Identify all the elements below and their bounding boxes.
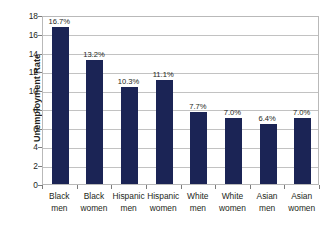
x-axis-tick-mark — [146, 185, 147, 189]
y-axis-tick-label: 6 — [12, 125, 38, 133]
bar[interactable] — [190, 112, 207, 184]
gridline — [43, 167, 318, 168]
gridline — [43, 148, 318, 149]
x-axis-tick-mark — [111, 185, 112, 189]
y-axis-tick-label: 12 — [12, 68, 38, 76]
x-axis-label-line: women — [279, 203, 325, 215]
x-axis-tick-mark — [215, 185, 216, 189]
x-axis-category-label: Asianwomen — [279, 191, 325, 214]
y-axis-tick-label: 16 — [12, 31, 38, 39]
x-axis-tick-mark — [77, 185, 78, 189]
bar-value-label: 11.1% — [142, 71, 184, 79]
y-axis-tick-label: 2 — [12, 162, 38, 170]
bar-chart: Unemployment Rate 181614121086420 16.7%1… — [0, 0, 334, 227]
gridline — [43, 35, 318, 36]
bar[interactable] — [294, 118, 311, 184]
y-axis-tick-label: 4 — [12, 143, 38, 151]
bar-value-label: 7.0% — [281, 109, 323, 117]
gridline — [43, 92, 318, 93]
bar[interactable] — [225, 118, 242, 184]
bar-value-label: 10.3% — [108, 78, 150, 86]
x-axis-tick-mark — [42, 185, 43, 189]
gridline — [43, 129, 318, 130]
bar[interactable] — [156, 80, 173, 184]
x-axis-tick-mark — [319, 185, 320, 189]
bar[interactable] — [52, 27, 69, 184]
plot-area — [42, 16, 319, 185]
y-axis-tick-label: 0 — [12, 181, 38, 189]
bar-value-label: 16.7% — [38, 18, 80, 26]
y-axis-tick-label: 8 — [12, 106, 38, 114]
y-axis-tick-label: 18 — [12, 12, 38, 20]
x-axis-tick-mark — [284, 185, 285, 189]
x-axis-label-line: Asian — [279, 191, 325, 203]
bar[interactable] — [86, 60, 103, 184]
y-axis-tick-label: 14 — [12, 50, 38, 58]
x-axis-tick-mark — [181, 185, 182, 189]
bar[interactable] — [121, 87, 138, 184]
bar-value-label: 13.2% — [73, 51, 115, 59]
y-axis-tick-label: 10 — [12, 87, 38, 95]
x-axis-tick-mark — [250, 185, 251, 189]
bar[interactable] — [260, 124, 277, 184]
gridline — [43, 110, 318, 111]
